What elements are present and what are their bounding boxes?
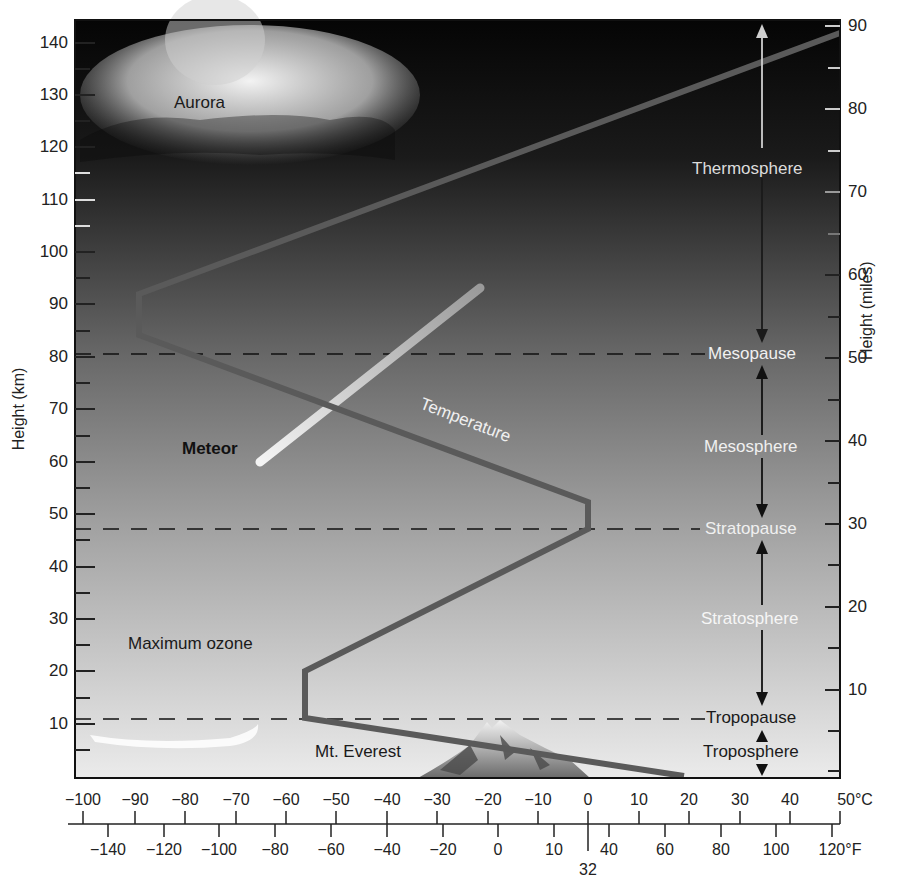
c-tick: −40: [373, 792, 400, 808]
mesopause-label: Mesopause: [708, 345, 796, 362]
y-tick-40: 40: [8, 558, 68, 575]
y2-tick-70: 70: [848, 183, 867, 200]
c-tick: −80: [171, 792, 198, 808]
y-tick-120: 120: [8, 138, 68, 155]
c-tick: −50: [322, 792, 349, 808]
f-tick: −20: [429, 842, 456, 858]
y2-tick-20: 20: [848, 598, 867, 615]
f-tick: −120: [146, 842, 182, 858]
c-tick: 10: [630, 792, 648, 808]
mt-everest-label: Mt. Everest: [315, 743, 401, 760]
c-tick: 40: [781, 792, 799, 808]
c-tick: 20: [680, 792, 698, 808]
f-tick: 60: [656, 842, 674, 858]
mesosphere-label: Mesosphere: [704, 438, 798, 455]
c-tick: 30: [731, 792, 749, 808]
f-tick: −140: [90, 842, 126, 858]
y-axis-right-title-text: Height (miles): [858, 261, 875, 360]
f-tick: −100: [201, 842, 237, 858]
c-tick: −100: [65, 792, 101, 808]
f-tick: −40: [373, 842, 400, 858]
y-tick-90: 90: [8, 295, 68, 312]
f-tick: −80: [261, 842, 288, 858]
y-tick-30: 30: [8, 610, 68, 627]
y2-tick-10: 10: [848, 681, 867, 698]
f-tick-32: 32: [579, 862, 597, 878]
y-tick-60: 60: [8, 453, 68, 470]
y2-tick-40: 40: [848, 432, 867, 449]
y-tick-140: 140: [8, 34, 68, 51]
max-ozone-label: Maximum ozone: [128, 635, 253, 652]
c-tick: 50°C: [837, 792, 873, 808]
c-tick: −30: [423, 792, 450, 808]
f-tick: 80: [712, 842, 730, 858]
y-tick-80: 80: [8, 348, 68, 365]
f-tick: 10: [545, 842, 563, 858]
y2-tick-30: 30: [848, 515, 867, 532]
c-tick: 0: [584, 792, 593, 808]
y2-tick-90: 90: [848, 17, 867, 34]
meteor-label: Meteor: [182, 440, 238, 457]
stratosphere-label: Stratosphere: [701, 610, 798, 627]
c-tick: −90: [121, 792, 148, 808]
tropopause-label: Tropopause: [706, 709, 796, 726]
y-axis-left-title: Height (km): [10, 368, 28, 451]
troposphere-label: Troposphere: [703, 743, 799, 760]
c-tick: −60: [272, 792, 299, 808]
y-tick-110: 110: [8, 191, 68, 208]
y-tick-10: 10: [8, 715, 68, 732]
y2-tick-80: 80: [848, 100, 867, 117]
y-tick-100: 100: [8, 243, 68, 260]
f-tick: 40: [600, 842, 618, 858]
y-tick-50: 50: [8, 505, 68, 522]
f-tick: −60: [317, 842, 344, 858]
f-tick: 120°F: [819, 842, 862, 858]
f-tick: 100: [763, 842, 790, 858]
c-tick: −10: [524, 792, 551, 808]
aurora-label: Aurora: [174, 94, 225, 111]
stratopause-label: Stratopause: [705, 520, 797, 537]
y-tick-130: 130: [8, 86, 68, 103]
c-tick: −70: [222, 792, 249, 808]
y-tick-20: 20: [8, 662, 68, 679]
c-tick: −20: [474, 792, 501, 808]
y-axis-right-title: Height (miles): [858, 261, 876, 360]
thermosphere-label: Thermosphere: [692, 160, 803, 177]
f-tick: 0: [494, 842, 503, 858]
